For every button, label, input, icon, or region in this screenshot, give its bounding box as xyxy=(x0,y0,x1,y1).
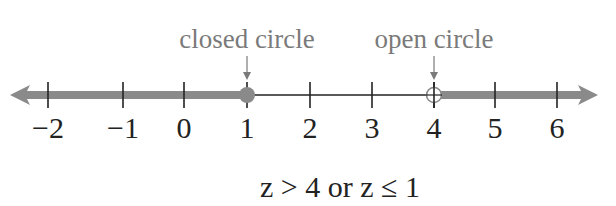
tick-label: 2 xyxy=(303,111,318,144)
tick-label: 1 xyxy=(240,111,255,144)
open-arrow-icon xyxy=(430,56,438,80)
tick-label: 0 xyxy=(177,111,192,144)
number-line-diagram: closed circle open circle −2 −1 xyxy=(0,0,616,206)
tick-label: 4 xyxy=(427,111,442,144)
open-circle-label: open circle xyxy=(374,24,493,54)
tick-label: 3 xyxy=(365,111,380,144)
tick-label: −2 xyxy=(32,111,64,144)
shaded-ray-right xyxy=(440,85,598,105)
closed-circle-icon xyxy=(239,87,255,103)
closed-arrow-icon xyxy=(243,56,251,80)
closed-circle-label: closed circle xyxy=(179,24,315,54)
tick-label: −1 xyxy=(107,111,139,144)
tick-label: 6 xyxy=(550,111,565,144)
shaded-ray-left xyxy=(10,85,247,105)
inequality-caption: z > 4 or z ≤ 1 xyxy=(260,170,420,203)
tick-label: 5 xyxy=(488,111,503,144)
